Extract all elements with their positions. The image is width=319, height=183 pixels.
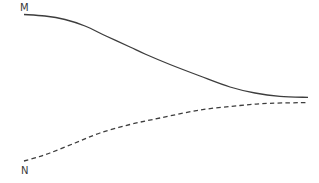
curve-label-n: N — [21, 166, 28, 176]
curve-n-dashed — [24, 103, 307, 161]
two-curve-diagram: M N — [0, 0, 319, 183]
curve-m-solid — [24, 15, 308, 98]
curves-canvas — [0, 0, 319, 183]
curve-label-m: M — [20, 3, 29, 13]
